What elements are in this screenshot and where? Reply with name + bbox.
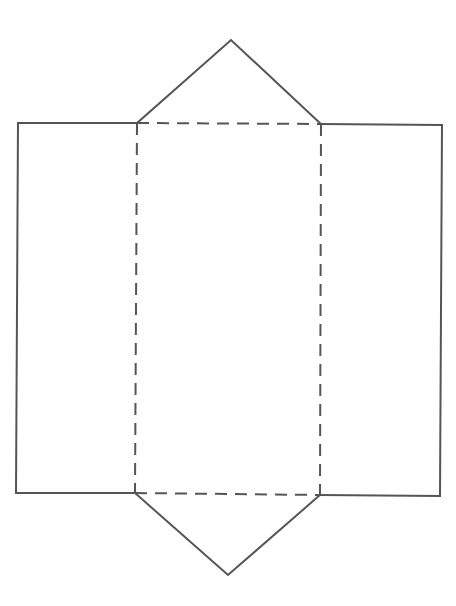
top-triangle-face	[137, 40, 321, 124]
bottom-triangle-face	[135, 493, 320, 575]
top-fold-line	[137, 123, 321, 124]
bottom-fold-line	[135, 493, 320, 495]
left-rectangle-face	[16, 123, 137, 493]
left-fold-line	[135, 123, 137, 493]
right-fold-line	[320, 124, 321, 495]
right-rectangle-face	[320, 124, 442, 496]
prism-net-diagram	[0, 0, 456, 606]
